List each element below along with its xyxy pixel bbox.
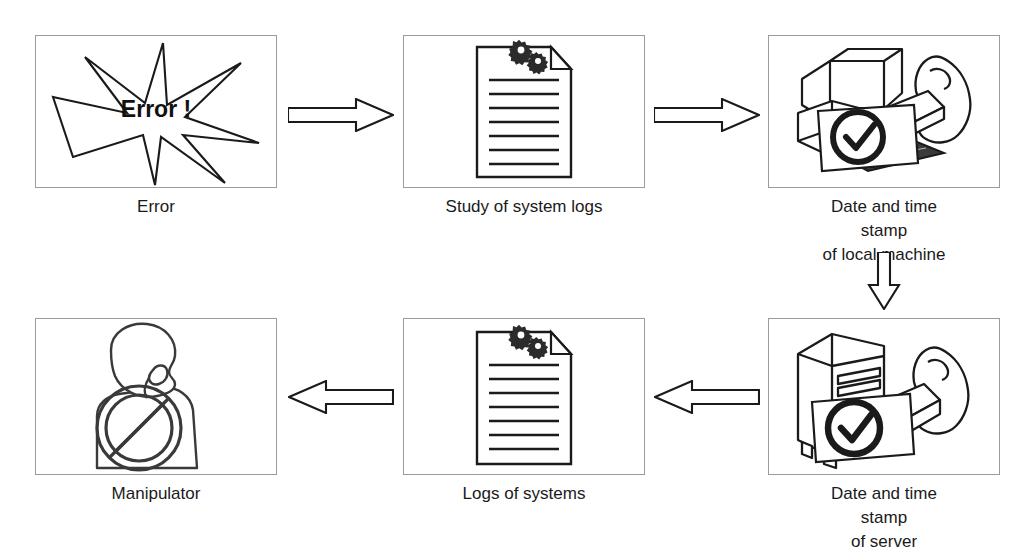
node-date-time-stamp-server[interactable] xyxy=(768,318,1000,475)
node-manipulator-label: Manipulator xyxy=(112,482,201,506)
arrow-logs-to-manipulator xyxy=(288,380,394,414)
arrow-local-stamp-to-server-stamp xyxy=(867,252,901,310)
explosion-star-icon: Error ! xyxy=(35,35,277,188)
server-stamp-icon xyxy=(768,318,1000,475)
node-error-label: Error xyxy=(137,195,175,219)
diagram-canvas: Error ! Error Study of xyxy=(0,0,1027,559)
node-study-of-system-logs-label: Study of system logs xyxy=(446,195,603,219)
arrow-study-to-local-stamp xyxy=(654,98,760,132)
node-date-time-stamp-local-machine[interactable] xyxy=(768,35,1000,188)
node-error[interactable]: Error ! xyxy=(35,35,277,188)
node-logs-of-systems-label: Logs of systems xyxy=(463,482,586,506)
node-logs-of-systems[interactable] xyxy=(403,318,645,475)
document-with-gears-icon xyxy=(403,318,645,475)
arrow-error-to-study xyxy=(288,98,394,132)
node-study-of-system-logs[interactable] xyxy=(403,35,645,188)
arrow-server-stamp-to-logs xyxy=(654,380,760,414)
desktop-computer-stamp-icon xyxy=(768,35,1000,188)
person-prohibited-icon xyxy=(35,318,277,475)
node-date-time-stamp-server-label: Date and time stamp of server xyxy=(813,482,956,554)
document-with-gears-icon xyxy=(403,35,645,188)
node-manipulator[interactable] xyxy=(35,318,277,475)
error-inner-text: Error ! xyxy=(121,96,191,122)
